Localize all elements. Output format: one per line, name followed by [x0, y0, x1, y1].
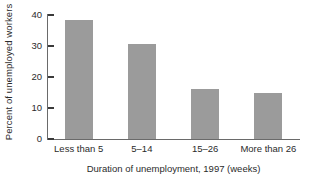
y-axis-tick-label-text: 40	[16, 10, 42, 20]
bar	[254, 93, 282, 140]
y-axis-tick	[48, 107, 54, 109]
y-axis-tick-label-text: 30	[16, 41, 42, 51]
bar	[65, 20, 93, 139]
x-axis-title: Duration of unemployment, 1997 (weeks)	[47, 163, 300, 175]
bar-chart-figure: Percent of unemployed workers 010203040 …	[0, 0, 312, 184]
y-axis-tick-label-text: 10	[16, 103, 42, 113]
y-axis-tick-label: 40	[14, 10, 42, 20]
x-axis-tick-label: More than 26	[218, 143, 312, 155]
y-axis-tick	[48, 76, 54, 78]
y-axis-tick-label: 20	[14, 72, 42, 82]
bar	[128, 44, 156, 139]
x-axis-line	[47, 139, 300, 140]
y-axis-tick-label: 30	[14, 41, 42, 51]
y-axis-tick	[48, 138, 54, 140]
y-axis-tick-label: 10	[14, 103, 42, 113]
y-axis-tick	[48, 14, 54, 16]
y-axis-tick-label-text: 20	[16, 72, 42, 82]
y-axis-tick	[48, 45, 54, 47]
bar	[191, 89, 219, 139]
